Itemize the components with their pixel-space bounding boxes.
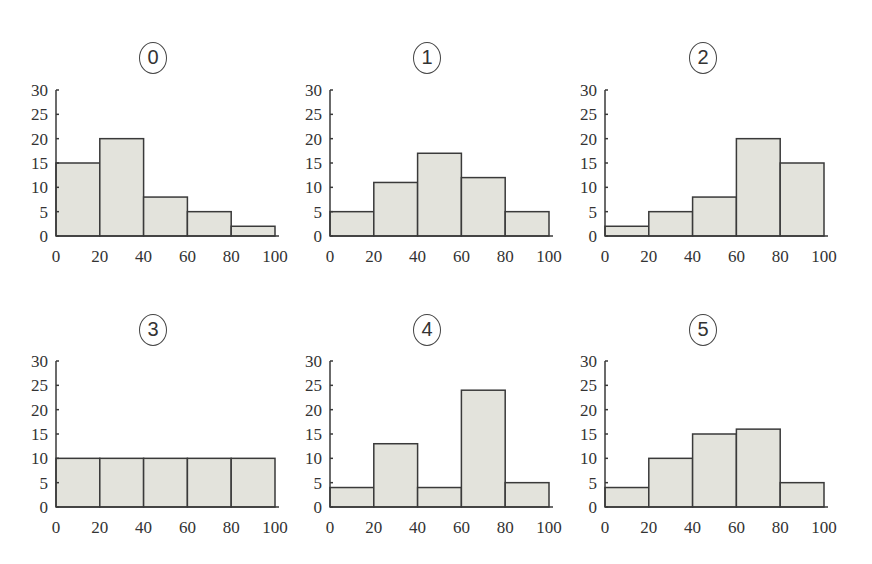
histogram-bar [693,434,737,507]
x-tick-label: 60 [728,518,745,537]
x-tick-label: 80 [772,518,789,537]
x-tick-label: 0 [601,518,610,537]
histogram-bar [605,488,649,507]
x-tick-label: 100 [811,518,837,537]
y-tick-label: 30 [580,352,597,371]
y-tick-label: 0 [589,498,598,517]
x-tick-label: 40 [684,518,701,537]
y-tick-label: 10 [580,449,597,468]
histogram-bar [649,458,693,507]
y-tick-label: 15 [580,425,597,444]
histogram-5: 051015202530020406080100 [0,0,872,564]
y-tick-label: 5 [589,474,598,493]
y-tick-label: 25 [580,376,597,395]
x-tick-label: 20 [640,518,657,537]
y-tick-label: 20 [580,401,597,420]
histogram-bar [780,483,824,507]
histogram-bar [736,429,780,507]
